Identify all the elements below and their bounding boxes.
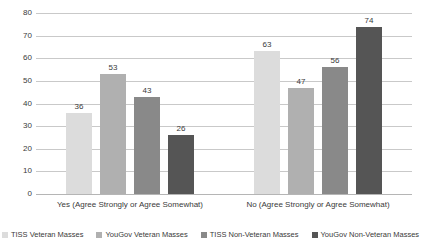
y-axis-tick-50: 50	[0, 77, 32, 85]
bar-group: 36534326	[36, 13, 224, 194]
bar-value-label: 47	[280, 78, 322, 86]
bar-slot: 47	[288, 13, 314, 194]
bar[interactable]	[356, 27, 382, 194]
bar-value-label: 56	[314, 57, 356, 65]
legend-swatch-icon	[312, 232, 318, 238]
y-axis-tick-30: 30	[0, 122, 32, 130]
legend-item[interactable]: TISS Non-Veteran Masses	[201, 231, 299, 239]
y-axis-tick-20: 20	[0, 145, 32, 153]
bar-slot: 43	[134, 13, 160, 194]
legend-swatch-icon	[96, 232, 102, 238]
legend-item[interactable]: YouGov Veteran Masses	[96, 231, 187, 239]
bar-value-label: 53	[92, 64, 134, 72]
bar-value-label: 36	[58, 103, 100, 111]
gridline-0	[36, 194, 412, 195]
bar-chart: Masses 80706050403020100 365343266347567…	[0, 0, 421, 248]
bar-value-label: 43	[126, 87, 168, 95]
y-axis-tick-40: 40	[0, 100, 32, 108]
legend-swatch-icon	[2, 232, 8, 238]
y-axis-tick-60: 60	[0, 54, 32, 62]
bar-slot: 53	[100, 13, 126, 194]
bar-value-label: 26	[160, 125, 202, 133]
legend-label: YouGov Non-Veteran Masses	[321, 231, 420, 239]
bar[interactable]	[322, 67, 348, 194]
legend-label: TISS Veteran Masses	[11, 231, 84, 239]
y-axis-tick-labels: 80706050403020100	[0, 13, 32, 194]
bar-slot: 26	[168, 13, 194, 194]
bar-value-label: 74	[348, 17, 390, 25]
bar[interactable]	[100, 74, 126, 194]
x-axis-category-label: No (Agree Strongly or Agree Somewhat)	[224, 200, 412, 209]
bar-group: 63475674	[224, 13, 412, 194]
chart-title: Masses	[0, 0, 421, 2]
y-axis-tick-70: 70	[0, 32, 32, 40]
y-axis-tick-10: 10	[0, 167, 32, 175]
y-axis-tick-0: 0	[0, 190, 32, 198]
legend-item[interactable]: TISS Veteran Masses	[2, 231, 84, 239]
bar[interactable]	[288, 88, 314, 194]
bar-slot: 74	[356, 13, 382, 194]
bar-slot: 36	[66, 13, 92, 194]
x-axis-category-labels: Yes (Agree Strongly or Agree Somewhat)No…	[36, 200, 412, 209]
bar[interactable]	[168, 135, 194, 194]
bar[interactable]	[134, 97, 160, 194]
chart-legend: TISS Veteran MassesYouGov Veteran Masses…	[0, 231, 421, 239]
legend-label: YouGov Veteran Masses	[105, 231, 187, 239]
bar-slots: 36534326	[36, 13, 224, 194]
bar-slots: 63475674	[224, 13, 412, 194]
bar-value-label: 63	[246, 41, 288, 49]
y-axis-tick-80: 80	[0, 9, 32, 17]
bar-slot: 63	[254, 13, 280, 194]
bar-groups: 3653432663475674	[36, 13, 412, 194]
legend-swatch-icon	[201, 232, 207, 238]
x-axis-category-label: Yes (Agree Strongly or Agree Somewhat)	[36, 200, 224, 209]
bar[interactable]	[254, 51, 280, 194]
legend-item[interactable]: YouGov Non-Veteran Masses	[312, 231, 420, 239]
legend-label: TISS Non-Veteran Masses	[210, 231, 299, 239]
bar-slot: 56	[322, 13, 348, 194]
bar[interactable]	[66, 113, 92, 194]
